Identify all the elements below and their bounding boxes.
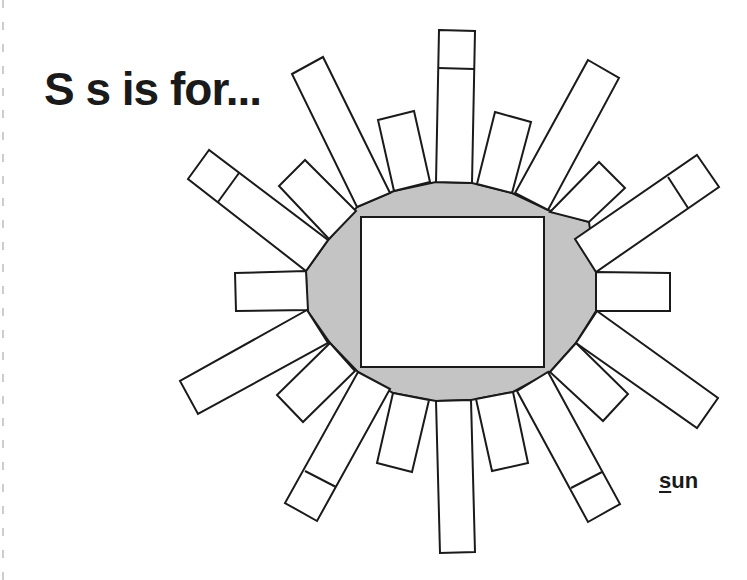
ray-right-horizontal[interactable]	[596, 272, 670, 311]
example-word: sun	[659, 470, 698, 492]
drawing-box[interactable]	[361, 217, 544, 367]
ray-left-horizontal[interactable]	[235, 271, 308, 311]
example-word-first-letter: s	[659, 468, 671, 493]
ray-bottom-right-small[interactable]	[476, 392, 528, 471]
sun-illustration	[0, 0, 747, 580]
ray-bottom-center[interactable]	[436, 400, 475, 553]
example-word-rest: un	[671, 468, 698, 493]
ray-top-center[interactable]	[436, 30, 475, 183]
ray-top-left-small[interactable]	[378, 111, 430, 191]
ray-bottom-left-small[interactable]	[377, 393, 429, 472]
